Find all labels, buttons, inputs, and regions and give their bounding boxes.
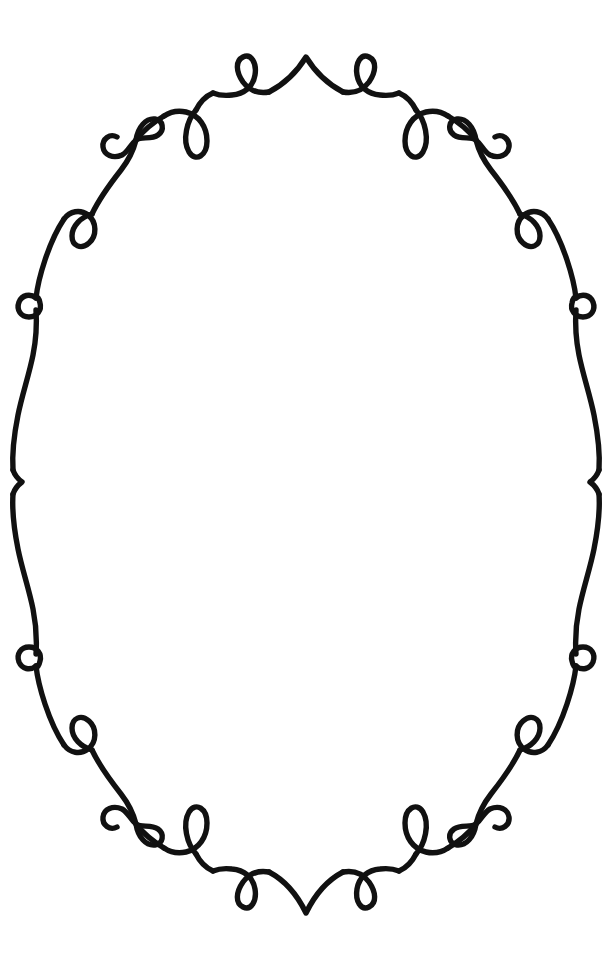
canvas-background	[0, 0, 613, 966]
artboard: Ornamental Oval Flourish Frame Hand-draw…	[0, 0, 613, 966]
ornamental-frame	[0, 0, 613, 966]
